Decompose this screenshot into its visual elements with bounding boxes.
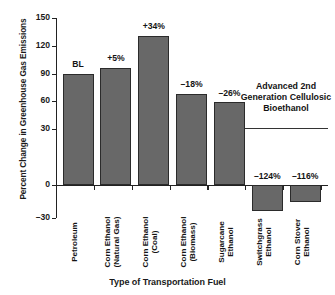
x-tick-mark (207, 185, 208, 190)
y-tick-mark (52, 101, 57, 102)
x-category-line: Corn Ethanol (103, 212, 112, 272)
y-tick-label: 0 (16, 179, 50, 190)
x-category-label-sugarcane-ethanol: Sugarcane Ethanol (217, 212, 236, 272)
bar-label-corn-ethanol-coal: +34% (125, 21, 182, 31)
x-tick-mark (245, 185, 246, 190)
bar-corn-ethanol-biomass[interactable] (176, 94, 207, 185)
bar-switchgrass-ethanol[interactable] (252, 185, 283, 212)
x-axis-title: Type of Transportation Fuel (0, 277, 335, 287)
x-tick-mark (94, 185, 95, 190)
x-category-label-petroleum: Petroleum (70, 212, 79, 272)
x-category-label-corn-stover-ethanol: Corn Stover Ethanol (293, 212, 312, 272)
x-category-line: Ethanol (302, 212, 311, 272)
x-category-line: Petroleum (70, 212, 79, 272)
x-category-label-corn-ethanol-natural-gas: Corn Ethanol (Natural Gas) (103, 212, 122, 272)
bar-petroleum[interactable] (63, 74, 94, 185)
y-tick-label: 90 (16, 68, 50, 79)
x-category-line: (Coal) (150, 212, 159, 272)
bar-label-corn-ethanol-natural-gas: +5% (87, 53, 144, 63)
x-category-line: (Biomass) (188, 212, 197, 272)
y-axis-line (56, 18, 57, 218)
x-category-line: (Natural Gas) (112, 212, 121, 272)
y-tick-mark (52, 185, 57, 186)
x-category-line: Corn Stover (293, 212, 302, 272)
x-category-label-switchgrass-ethanol: Switchgrass Ethanol (255, 212, 274, 272)
x-tick-mark (132, 185, 133, 190)
annotation-line-3: Cellulosic (290, 92, 332, 102)
annotation-line-1: Advanced (256, 81, 298, 91)
y-tick-mark (52, 46, 57, 47)
x-category-label-corn-ethanol-biomass: Corn Ethanol (Biomass) (179, 212, 198, 272)
x-axis-zero-line (56, 185, 328, 186)
x-tick-mark (321, 185, 322, 190)
y-tick-label: 30 (16, 123, 50, 134)
y-tick-label: 120 (16, 40, 50, 51)
bar-label-corn-stover-ethanol: –116% (277, 171, 334, 181)
bar-corn-stover-ethanol[interactable] (290, 185, 321, 203)
plot-area: 150 120 90 60 30 0 –30 (56, 18, 328, 218)
y-tick-mark (52, 218, 57, 219)
y-tick-mark (52, 74, 57, 75)
x-category-label-corn-ethanol-coal: Corn Ethanol (Coal) (141, 212, 160, 272)
x-tick-mark (170, 185, 171, 190)
x-category-line: Sugarcane (217, 212, 226, 272)
x-category-line: Corn Ethanol (179, 212, 188, 272)
x-category-line: Ethanol (226, 212, 235, 272)
x-category-line: Ethanol (264, 212, 273, 272)
x-category-line: Corn Ethanol (141, 212, 150, 272)
y-tick-label: 60 (16, 95, 50, 106)
y-tick-label: 150 (16, 12, 50, 23)
y-tick-mark (52, 129, 57, 130)
y-tick-label: –30 (16, 212, 50, 223)
annotation-line-4: Bioethanol (263, 103, 308, 113)
annotation-advanced-cellulosic: Advanced 2nd Generation Cellulosic Bioet… (238, 81, 334, 115)
x-tick-mark (283, 185, 284, 190)
x-category-line: Switchgrass (255, 212, 264, 272)
bar-corn-ethanol-coal[interactable] (138, 36, 169, 185)
bar-corn-ethanol-natural-gas[interactable] (100, 68, 131, 185)
chart-figure: Percent Change in Greenhouse Gas Emissio… (0, 0, 335, 295)
annotation-underline (245, 128, 328, 129)
y-tick-mark (52, 18, 57, 19)
